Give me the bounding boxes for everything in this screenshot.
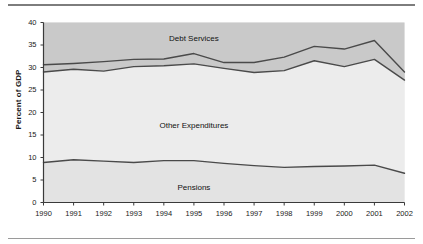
x-tick-label: 1996 xyxy=(207,209,241,218)
x-tick-label: 2002 xyxy=(388,209,422,218)
series-label-pensions: Pensions xyxy=(134,183,254,192)
y-tick-label: 15 xyxy=(17,130,37,139)
x-tick-label: 1993 xyxy=(117,209,151,218)
y-tick-label: 30 xyxy=(17,63,37,72)
figure-container: Percent of GDP 0510152025303540 19901991… xyxy=(0,0,423,244)
y-tick-label: 10 xyxy=(17,153,37,162)
y-tick-label: 35 xyxy=(17,40,37,49)
x-tick-label: 1997 xyxy=(237,209,271,218)
x-tick-label: 2000 xyxy=(327,209,361,218)
y-tick-label: 5 xyxy=(17,175,37,184)
plot-bands xyxy=(44,23,405,203)
series-label-debt-services: Debt Services xyxy=(134,34,254,43)
series-label-other-expenditures: Other Expenditures xyxy=(134,121,254,130)
y-tick-label: 0 xyxy=(17,198,37,207)
chart-area: Percent of GDP 0510152025303540 19901991… xyxy=(0,0,423,244)
band-other-expenditures xyxy=(44,59,405,173)
x-tick-label: 1990 xyxy=(27,209,61,218)
x-tick-label: 2001 xyxy=(357,209,391,218)
y-tick-label: 25 xyxy=(17,85,37,94)
x-tick-label: 1991 xyxy=(57,209,91,218)
x-tick-label: 1992 xyxy=(87,209,121,218)
x-tick-label: 1994 xyxy=(147,209,181,218)
y-tick-label: 20 xyxy=(17,108,37,117)
x-tick-label: 1995 xyxy=(177,209,211,218)
x-tick-label: 1999 xyxy=(297,209,331,218)
x-tick-label: 1998 xyxy=(267,209,301,218)
y-tick-label: 40 xyxy=(17,18,37,27)
